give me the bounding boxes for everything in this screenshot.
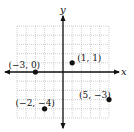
- point-label: (−2, −4): [16, 98, 55, 108]
- point-label: (5, −3): [79, 90, 111, 100]
- coordinate-plane: x y (−3, 0)(1, 1)(−2, −4)(5, −3): [0, 0, 134, 132]
- point-label: (1, 1): [77, 53, 101, 63]
- data-point: [33, 69, 38, 74]
- data-points: (−3, 0)(1, 1)(−2, −4)(5, −3): [8, 53, 111, 112]
- point-label: (−3, 0): [8, 60, 40, 70]
- data-point: [70, 60, 75, 65]
- y-axis-label: y: [59, 4, 66, 15]
- x-axis-label: x: [121, 66, 127, 77]
